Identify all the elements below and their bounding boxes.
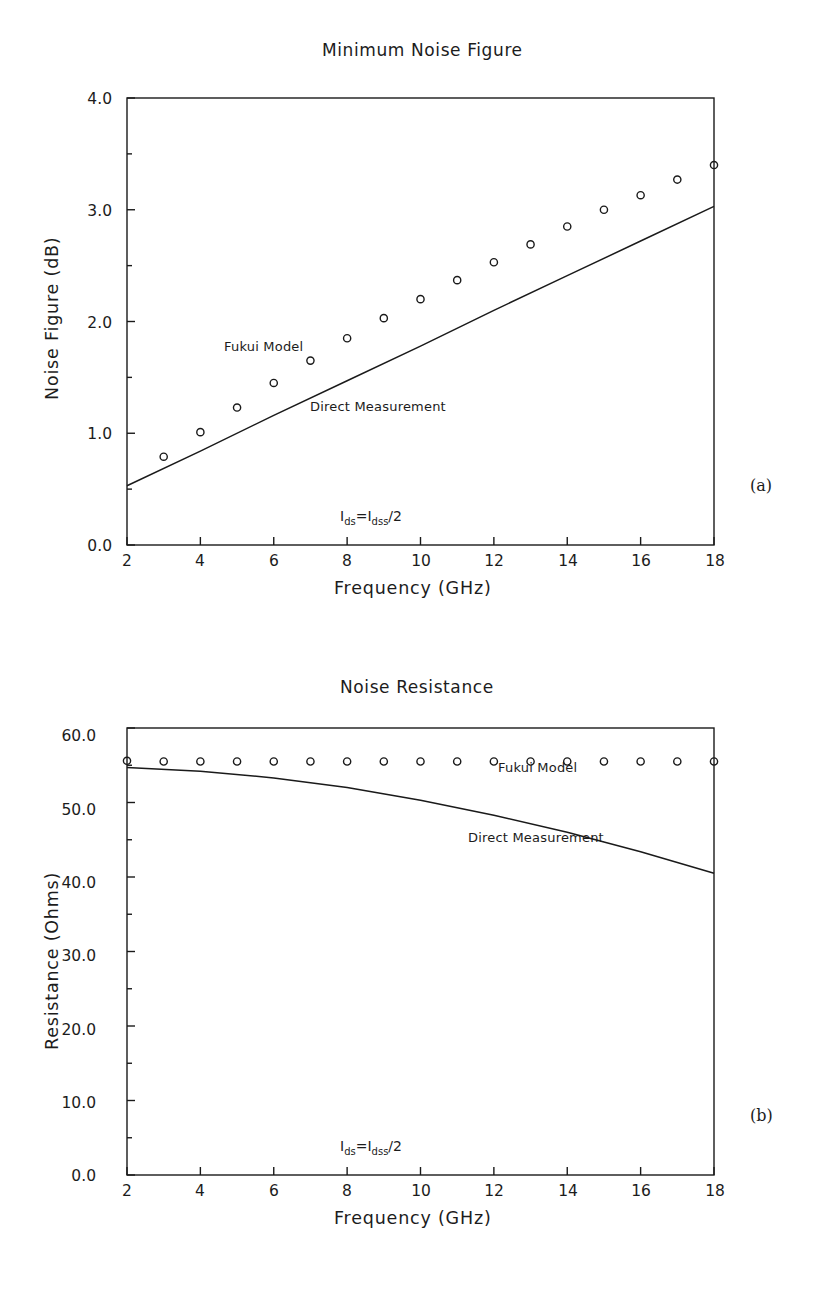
data-point-marker: [454, 758, 461, 765]
data-point-marker: [233, 758, 240, 765]
data-point-marker: [637, 192, 644, 199]
plot-frame-a: [127, 98, 714, 545]
series-line-direct-measurement-a: [127, 206, 714, 485]
figure-root: Minimum Noise Figure Noise Figure (dB) F…: [0, 0, 828, 1289]
data-point-marker: [674, 758, 681, 765]
data-point-marker: [160, 453, 167, 460]
data-point-marker: [344, 335, 351, 342]
plot-frame-b: [127, 728, 714, 1175]
data-point-marker: [564, 223, 571, 230]
data-point-marker: [160, 758, 167, 765]
data-point-marker: [197, 758, 204, 765]
data-line-direct-measurement: [127, 206, 714, 485]
data-point-marker: [600, 758, 607, 765]
data-point-marker: [307, 758, 314, 765]
data-point-marker: [637, 758, 644, 765]
data-line-direct-measurement: [127, 767, 714, 873]
data-point-marker: [270, 758, 277, 765]
series-markers-fukui-model-a: [160, 161, 718, 460]
data-point-marker: [600, 206, 607, 213]
axis-ticks-a: [127, 98, 714, 545]
data-point-marker: [674, 176, 681, 183]
series-line-direct-measurement-b: [127, 767, 714, 873]
data-point-marker: [380, 315, 387, 322]
plot-canvas: [0, 0, 828, 1289]
data-point-marker: [527, 241, 534, 248]
data-point-marker: [454, 277, 461, 284]
data-point-marker: [270, 379, 277, 386]
series-markers-fukui-model-b: [123, 757, 717, 765]
data-point-marker: [564, 758, 571, 765]
data-point-marker: [197, 429, 204, 436]
data-point-marker: [417, 296, 424, 303]
data-point-marker: [380, 758, 387, 765]
axis-ticks-b: [127, 728, 714, 1175]
data-point-marker: [344, 758, 351, 765]
data-point-marker: [490, 259, 497, 266]
data-point-marker: [307, 357, 314, 364]
data-point-marker: [490, 758, 497, 765]
data-point-marker: [417, 758, 424, 765]
data-point-marker: [233, 404, 240, 411]
data-point-marker: [527, 758, 534, 765]
